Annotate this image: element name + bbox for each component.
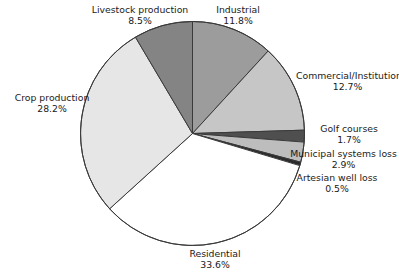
- slice-label-golf-courses: Golf courses 1.7%: [313, 123, 385, 145]
- slice-label-residential-value: 33.6%: [177, 259, 253, 270]
- slice-label-industrial-name: Industrial: [202, 4, 274, 15]
- slice-label-industrial-value: 11.8%: [202, 15, 274, 26]
- slice-label-municipal-systems-loss-name: Municipal systems loss: [288, 148, 399, 159]
- slice-label-crop-production-value: 28.2%: [2, 103, 102, 114]
- slice-label-artesian-well-loss: Artesian well loss 0.5%: [285, 172, 389, 194]
- slice-label-residential-name: Residential: [177, 248, 253, 259]
- slice-label-commercial-institutional-value: 12.7%: [296, 81, 399, 92]
- slice-label-livestock-production-value: 8.5%: [80, 15, 200, 26]
- slice-label-livestock-production-name: Livestock production: [80, 4, 200, 15]
- slice-label-crop-production: Crop production 28.2%: [2, 92, 102, 114]
- pie-slices-group: [81, 22, 305, 246]
- slice-label-commercial-institutional-name: Commercial/Institutional: [296, 70, 399, 81]
- slice-label-residential: Residential 33.6%: [177, 248, 253, 270]
- slice-label-crop-production-name: Crop production: [2, 92, 102, 103]
- slice-label-commercial-institutional: Commercial/Institutional 12.7%: [296, 70, 399, 92]
- pie-chart-figure: Livestock production 8.5% Industrial 11.…: [0, 0, 399, 275]
- slice-label-artesian-well-loss-name: Artesian well loss: [285, 172, 389, 183]
- slice-label-artesian-well-loss-value: 0.5%: [285, 183, 389, 194]
- slice-label-industrial: Industrial 11.8%: [202, 4, 274, 26]
- slice-label-municipal-systems-loss-value: 2.9%: [288, 159, 399, 170]
- slice-label-golf-courses-name: Golf courses: [313, 123, 385, 134]
- slice-label-livestock-production: Livestock production 8.5%: [80, 4, 200, 26]
- slice-label-municipal-systems-loss: Municipal systems loss 2.9%: [288, 148, 399, 170]
- slice-label-golf-courses-value: 1.7%: [313, 134, 385, 145]
